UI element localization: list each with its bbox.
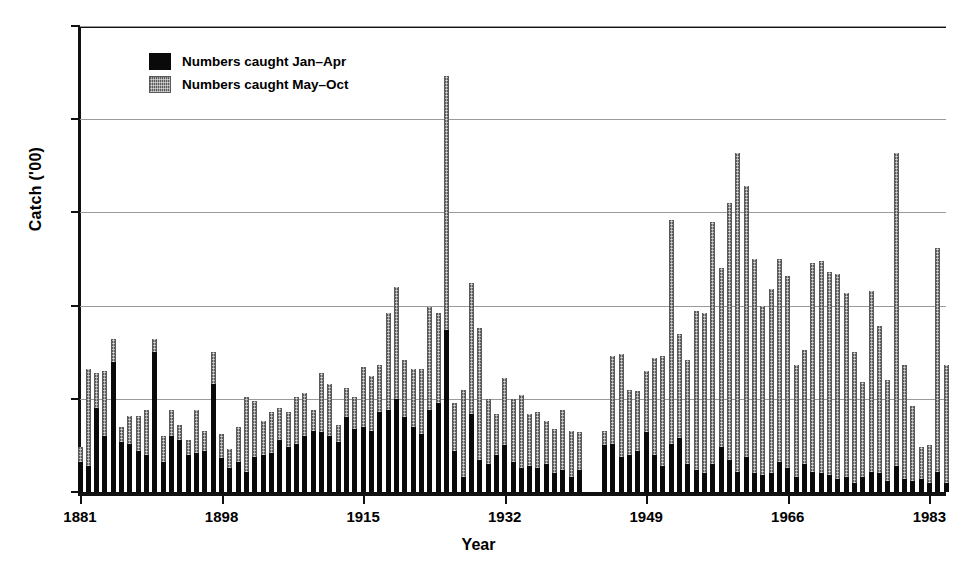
chart-legend: Numbers caught Jan–Apr Numbers caught Ma… [149, 50, 349, 96]
bar-segment-may-oct [777, 259, 782, 462]
bar-segment-jan-apr [402, 417, 407, 492]
bar-segment-may-oct [660, 356, 665, 466]
bar-segment-may-oct [394, 287, 399, 399]
bar-segment-may-oct [102, 371, 107, 436]
bar-segment-jan-apr [852, 483, 857, 492]
bar-segment-may-oct [452, 403, 457, 451]
bar-segment-may-oct [494, 414, 499, 455]
bar-segment-jan-apr [519, 468, 524, 492]
bar-segment-jan-apr [302, 436, 307, 492]
bar-segment-jan-apr [102, 436, 107, 492]
bar-segment-may-oct [894, 153, 899, 466]
bar-segment-jan-apr [294, 444, 299, 492]
bar-segment-may-oct [635, 391, 640, 451]
bar-segment-may-oct [944, 365, 949, 482]
bar-segment-may-oct [136, 416, 141, 451]
bar-segment-jan-apr [935, 472, 940, 493]
bar-segment-jan-apr [627, 455, 632, 492]
bar-segment-may-oct [344, 388, 349, 418]
bar-segment-may-oct [535, 412, 540, 468]
bar-segment-may-oct [919, 447, 924, 479]
bar-segment-jan-apr [552, 473, 557, 492]
bar-segment-may-oct [569, 431, 574, 478]
x-tick-mark [788, 492, 790, 504]
bar-segment-jan-apr [919, 479, 924, 492]
bar-segment-jan-apr [827, 475, 832, 492]
bar-segment-may-oct [427, 307, 432, 410]
x-tick-label: 1966 [753, 508, 823, 525]
bar-segment-jan-apr [377, 412, 382, 492]
bar-segment-jan-apr [635, 451, 640, 492]
bar-segment-may-oct [352, 397, 357, 429]
x-tick-label: 1898 [187, 508, 257, 525]
bar-segment-may-oct [785, 276, 790, 468]
bar-segment-jan-apr [927, 483, 932, 492]
bar-segment-jan-apr [161, 462, 166, 492]
x-tick-mark [929, 492, 931, 504]
legend-label-jan-apr: Numbers caught Jan–Apr [182, 54, 346, 69]
bar-segment-jan-apr [202, 451, 207, 492]
bar-segment-jan-apr [752, 473, 757, 492]
bar-segment-jan-apr [810, 472, 815, 493]
bar-segment-jan-apr [211, 384, 216, 492]
x-tick-label: 1932 [470, 508, 540, 525]
bar-segment-jan-apr [386, 410, 391, 492]
bar-segment-may-oct [702, 313, 707, 473]
bar-segment-jan-apr [394, 399, 399, 492]
bar-segment-jan-apr [111, 362, 116, 492]
bar-segment-may-oct [311, 410, 316, 431]
bar-segment-may-oct [802, 350, 807, 464]
x-tick-mark [505, 492, 507, 504]
bar-segment-jan-apr [894, 466, 899, 492]
bar-segment-jan-apr [244, 472, 249, 493]
bar-segment-jan-apr [86, 466, 91, 492]
bar-segment-may-oct [444, 76, 449, 330]
bar-segment-jan-apr [910, 481, 915, 492]
bar-segment-jan-apr [411, 427, 416, 492]
bar-segment-jan-apr [236, 462, 241, 492]
bar-segment-may-oct [552, 429, 557, 474]
bar-segment-jan-apr [136, 451, 141, 492]
bar-segment-jan-apr [619, 457, 624, 492]
gridline [80, 119, 946, 120]
bar-segment-may-oct [827, 272, 832, 475]
catch-bar-chart: Catch ('00) Year 0510152025 188118981915… [0, 0, 957, 574]
legend-swatch-may-oct-icon [149, 76, 171, 93]
bar-segment-may-oct [644, 371, 649, 433]
bar-segment-may-oct [927, 445, 932, 482]
bar-segment-jan-apr [569, 477, 574, 492]
bar-segment-may-oct [461, 390, 466, 478]
bar-segment-may-oct [269, 412, 274, 453]
bar-segment-may-oct [302, 393, 307, 436]
y-tick-mark [71, 118, 80, 120]
bar-segment-may-oct [727, 203, 732, 460]
bar-segment-jan-apr [461, 477, 466, 492]
x-tick-label: 1949 [611, 508, 681, 525]
bar-segment-may-oct [902, 365, 907, 479]
bar-segment-jan-apr [760, 475, 765, 492]
bar-segment-jan-apr [186, 455, 191, 492]
bar-segment-may-oct [327, 384, 332, 436]
bar-segment-jan-apr [252, 457, 257, 492]
bar-segment-may-oct [227, 449, 232, 468]
bar-segment-may-oct [402, 360, 407, 418]
bar-segment-may-oct [710, 222, 715, 464]
bar-segment-may-oct [277, 408, 282, 440]
bar-segment-may-oct [752, 259, 757, 473]
bar-segment-jan-apr [427, 410, 432, 492]
bar-segment-may-oct [336, 425, 341, 442]
bar-segment-may-oct [694, 311, 699, 469]
bar-segment-jan-apr [777, 462, 782, 492]
bar-segment-may-oct [652, 358, 657, 455]
x-tick-mark [363, 492, 365, 504]
legend-label-may-oct: Numbers caught May–Oct [182, 77, 349, 92]
bar-segment-jan-apr [319, 432, 324, 492]
plot-baseline [78, 492, 946, 496]
bar-segment-jan-apr [702, 473, 707, 492]
bar-segment-may-oct [511, 399, 516, 462]
bar-segment-may-oct [602, 431, 607, 446]
bar-segment-jan-apr [269, 453, 274, 492]
bar-segment-jan-apr [577, 470, 582, 492]
bar-segment-may-oct [544, 421, 549, 464]
bar-segment-may-oct [244, 397, 249, 472]
